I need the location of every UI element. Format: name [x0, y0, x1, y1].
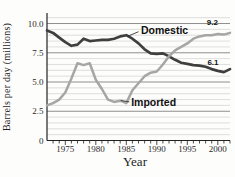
y-tick-label: 0: [39, 136, 44, 146]
x-tick-labels: 197519801985199019952000: [56, 144, 227, 154]
y-tick-labels: 02.55.07.510.0: [28, 19, 44, 146]
series-lines: [47, 31, 230, 106]
imported-end-value: 9.2: [207, 18, 219, 27]
x-tick-label: 1985: [117, 144, 136, 154]
annotations: DomesticImported9.26.1: [121, 18, 219, 108]
y-tick-label: 5.0: [32, 77, 44, 87]
y-axis-title: Barrels per day (millions): [1, 23, 13, 131]
x-axis-ticks: [53, 141, 230, 146]
y-tick-label: 2.5: [32, 106, 44, 116]
petroleum-line-chart-figure: 02.55.07.510.0 197519801985199019952000 …: [0, 0, 235, 177]
x-axis-title: Year: [123, 154, 148, 169]
x-tick-label: 1975: [56, 144, 75, 154]
domestic-series-label: Domestic: [141, 24, 188, 36]
imported-series-label: Imported: [131, 96, 176, 108]
y-tick-label: 7.5: [32, 48, 44, 58]
y-tick-label: 10.0: [28, 19, 44, 29]
x-tick-label: 1995: [178, 144, 197, 154]
oil-supply-line-chart: 02.55.07.510.0 197519801985199019952000 …: [0, 0, 235, 177]
domestic-end-value: 6.1: [207, 58, 219, 67]
x-tick-label: 1980: [87, 144, 106, 154]
x-tick-label: 1990: [148, 144, 167, 154]
x-tick-label: 2000: [209, 144, 228, 154]
domestic-series-label-leader-line: [128, 32, 139, 37]
